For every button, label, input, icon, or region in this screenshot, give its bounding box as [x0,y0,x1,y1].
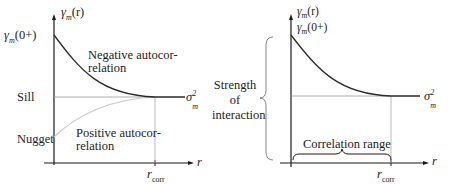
right-rcorr-label: rcorr [377,168,395,181]
strength-brace-icon [260,37,273,160]
left-sigma-label: σ2m [186,91,199,104]
right-gamma0-label: γm(0+) [297,21,327,34]
right-variogram-curve [291,35,420,96]
left-rcorr-label: rcorr [147,168,165,181]
left-x-axis-arrow-icon [188,161,194,165]
correlation-range-label: Correlation range [303,138,391,151]
right-x-axis-arrow-icon [423,161,429,165]
negative-autocorrelation-label: Negative autocor- relation [88,49,178,75]
positive-autocorrelation-label: Positive autocor- relation [76,127,161,153]
right-y-axis-label: γm(r) [297,5,319,18]
left-y-axis-label: γm(r) [61,6,84,19]
left-x-axis-label: r [197,156,202,169]
left-gamma0-label: γm(0+) [4,29,36,42]
right-sigma-label: σ2m [424,90,437,103]
strength-of-interaction-label: Strength of interaction [212,78,258,123]
nugget-label: Nugget [17,133,54,146]
right-x-axis-label: r [432,155,437,168]
left-y-axis-arrow-icon [52,14,56,20]
sill-label: Sill [17,91,34,104]
right-y-axis-arrow-icon [289,14,293,20]
